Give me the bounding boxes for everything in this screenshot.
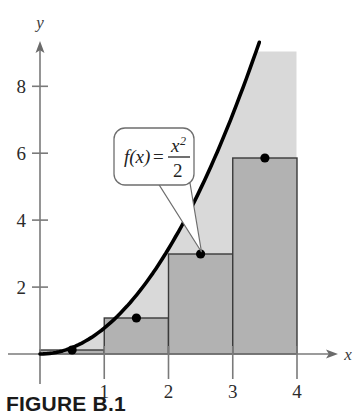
y-tick-label-4: 4: [17, 210, 27, 231]
formula-denominator: 2: [173, 160, 183, 181]
formula-numerator-base: x: [170, 135, 180, 156]
x-axis-label: x: [343, 345, 352, 364]
rectangle-bar-4: [233, 158, 297, 354]
figure-caption: FIGURE B.1: [6, 392, 126, 414]
y-tick-label-2: 2: [17, 277, 27, 298]
rectangle-bar-2: [104, 318, 168, 354]
x-tick-label-2: 2: [164, 381, 174, 402]
formula-numerator-exponent: 2: [180, 134, 186, 148]
marked-point-4: [260, 153, 269, 162]
callout-bubble: f(x) = x 2 2: [114, 128, 194, 185]
marked-point-1: [68, 345, 77, 354]
y-tick-label-8: 8: [17, 76, 27, 97]
marked-point-2: [132, 313, 141, 322]
x-tick-label-4: 4: [292, 381, 302, 402]
formula-function-name: f(x): [124, 146, 150, 168]
formula-equals: =: [153, 146, 164, 167]
figure-container: 8 6 4 2 1 2 3 4 y x: [0, 0, 358, 414]
y-axis-label: y: [34, 13, 44, 32]
x-tick-label-3: 3: [228, 381, 238, 402]
riemann-sum-chart: 8 6 4 2 1 2 3 4 y x: [0, 0, 358, 414]
rectangle-bar-3: [169, 254, 233, 354]
y-tick-label-6: 6: [17, 143, 27, 164]
